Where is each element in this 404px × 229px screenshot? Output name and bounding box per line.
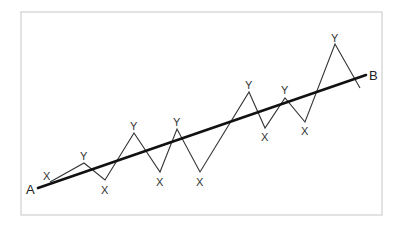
point-label-x2: X [101, 184, 109, 196]
trend-diagram: ABXYXYXYXYXYXY [0, 0, 404, 229]
point-label-x3: X [156, 176, 164, 188]
point-label-x6: X [301, 125, 309, 137]
point-label-x1: X [43, 170, 51, 182]
endpoint-label-b: B [369, 68, 378, 83]
point-label-x4: X [196, 176, 204, 188]
point-label-y2: Y [130, 120, 138, 132]
point-label-y4: Y [245, 79, 253, 91]
point-label-y5: Y [281, 84, 289, 96]
point-label-y1: Y [80, 150, 88, 162]
point-label-x5: X [261, 131, 269, 143]
point-label-y3: Y [173, 116, 181, 128]
endpoint-label-a: A [26, 182, 35, 197]
point-label-y6: Y [331, 32, 339, 44]
